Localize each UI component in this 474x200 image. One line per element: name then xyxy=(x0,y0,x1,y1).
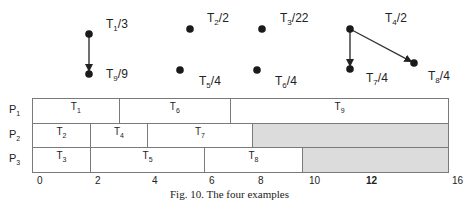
node-T6 xyxy=(253,66,261,74)
node-label-T3: T3/22 xyxy=(280,11,308,27)
processor-label-P1: P1 xyxy=(9,103,20,117)
axis-tick-12: 12 xyxy=(366,175,377,186)
task-bar-T7: T7 xyxy=(147,123,253,148)
figure-caption: Fig. 10. The four examples xyxy=(170,188,289,200)
processor-label-P3: P3 xyxy=(9,152,20,166)
idle-slot xyxy=(302,147,449,173)
task-bar-T3: T3 xyxy=(32,147,91,173)
axis-tick-4: 4 xyxy=(152,175,158,186)
node-label-T2: T2/2 xyxy=(207,11,229,27)
node-label-T5: T5/4 xyxy=(199,74,221,90)
node-T1 xyxy=(85,30,93,38)
edge-T4-T8 xyxy=(350,29,410,61)
axis-tick-16: 16 xyxy=(452,175,463,186)
node-T8 xyxy=(410,59,418,67)
node-T5 xyxy=(176,66,184,74)
node-label-T4: T4/2 xyxy=(385,11,407,27)
task-bar-T6: T6 xyxy=(119,98,232,124)
axis-tick-0: 0 xyxy=(37,175,43,186)
task-bar-T1: T1 xyxy=(32,98,120,124)
axis-tick-2: 2 xyxy=(95,175,101,186)
idle-slot xyxy=(252,123,449,148)
node-T2 xyxy=(186,25,194,33)
node-label-T8: T8/4 xyxy=(428,69,450,85)
node-label-T1: T1/3 xyxy=(106,17,128,33)
axis-tick-6: 6 xyxy=(209,175,215,186)
node-label-T7: T7/4 xyxy=(366,71,388,87)
node-T7 xyxy=(346,65,354,73)
node-label-T6: T6/4 xyxy=(275,74,297,90)
task-bar-T9: T9 xyxy=(230,98,449,124)
node-T9 xyxy=(85,70,93,78)
task-bar-T5: T5 xyxy=(90,147,205,173)
task-bar-T2: T2 xyxy=(32,123,91,148)
node-T3 xyxy=(258,25,266,33)
task-bar-T8: T8 xyxy=(204,147,303,173)
processor-label-P2: P2 xyxy=(9,128,20,142)
task-bar-T4: T4 xyxy=(90,123,148,148)
axis-tick-8: 8 xyxy=(258,175,264,186)
axis-tick-10: 10 xyxy=(309,175,320,186)
node-T4 xyxy=(346,25,354,33)
node-label-T9: T9/9 xyxy=(106,67,128,83)
